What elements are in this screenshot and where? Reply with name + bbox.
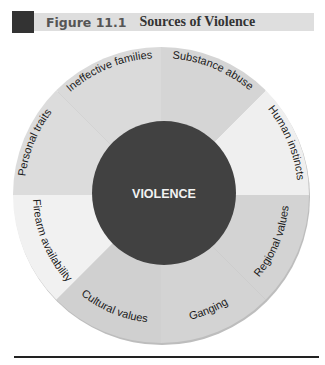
sources-of-violence-diagram: VIOLENCE Human instincts Regional values… xyxy=(0,0,325,365)
center-label: VIOLENCE xyxy=(132,187,196,201)
bottom-rule xyxy=(14,356,319,358)
